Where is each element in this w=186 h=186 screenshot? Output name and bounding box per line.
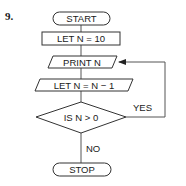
start-terminator: START xyxy=(53,12,110,25)
decrement-io-box: LET N = N − 1 xyxy=(35,79,133,91)
decision-label: IS N > 0 xyxy=(64,112,99,123)
init-label: LET N = 10 xyxy=(57,33,105,44)
init-process-box: LET N = 10 xyxy=(42,32,120,45)
decision-diamond: IS N > 0 xyxy=(36,102,126,133)
yes-label: YES xyxy=(133,102,152,113)
print-label: PRINT N xyxy=(63,57,101,68)
decrement-label: LET N = N − 1 xyxy=(54,80,115,91)
start-label: START xyxy=(66,13,96,24)
problem-number: 9. xyxy=(5,10,14,22)
print-io-box: PRINT N xyxy=(48,56,117,68)
flowchart-figure: 9. START LET N = 10 PRINT N xyxy=(0,0,186,186)
stop-terminator: STOP xyxy=(53,163,111,176)
no-label: NO xyxy=(86,143,100,154)
stop-label: STOP xyxy=(69,164,95,175)
